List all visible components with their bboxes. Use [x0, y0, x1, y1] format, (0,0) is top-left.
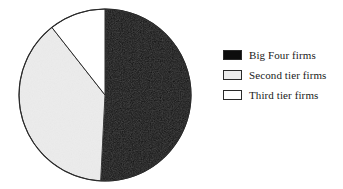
chart-legend: Big Four firms Second tier firms Third t…: [223, 46, 341, 104]
legend-item-second-tier-firms: Second tier firms: [223, 66, 341, 83]
pie-plot-area: [17, 6, 195, 186]
legend-label-second-tier-firms: Second tier firms: [249, 69, 326, 81]
legend-label-big-four-firms: Big Four firms: [249, 49, 316, 61]
legend-swatch-second-tier-firms: [223, 70, 242, 80]
pie-slice-big-four-firms: [101, 9, 191, 181]
legend-swatch-big-four-firms: [223, 50, 242, 60]
legend-item-big-four-firms: Big Four firms: [223, 46, 341, 63]
legend-item-third-tier-firms: Third tier firms: [223, 86, 341, 103]
legend-label-third-tier-firms: Third tier firms: [249, 89, 318, 101]
pie-chart-svg: [17, 6, 195, 186]
pie-chart-figure: Big Four firms Second tier firms Third t…: [0, 0, 343, 189]
legend-swatch-third-tier-firms: [223, 90, 242, 100]
